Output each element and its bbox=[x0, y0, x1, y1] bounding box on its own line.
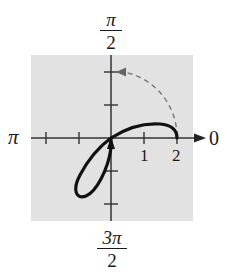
polar-axis-arrow-icon bbox=[194, 134, 206, 143]
label-pi-over-2-denominator: 2 bbox=[106, 31, 116, 52]
tick-label-1: 1 bbox=[140, 147, 149, 164]
label-pi-over-2-numerator: π bbox=[104, 10, 118, 30]
label-pi: π bbox=[8, 127, 19, 148]
label-pi-over-2: π 2 bbox=[100, 10, 122, 52]
label-3pi-over-2-numerator: 3π bbox=[100, 228, 123, 248]
label-zero: 0 bbox=[209, 128, 219, 148]
polar-graph: π 2 3π 2 π 0 1 2 bbox=[0, 0, 227, 279]
tick-label-2: 2 bbox=[172, 147, 181, 164]
label-3pi-over-2: 3π 2 bbox=[97, 228, 127, 270]
label-3pi-over-2-denominator: 2 bbox=[107, 249, 117, 270]
